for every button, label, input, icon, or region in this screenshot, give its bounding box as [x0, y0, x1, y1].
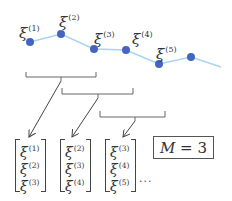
arrow-2 — [72, 98, 98, 137]
vector-entry: ξ(2) — [20, 157, 39, 174]
point-label-4: ξ(4) — [132, 31, 153, 47]
vector-entry: ξ(2) — [65, 140, 84, 157]
arrow-3 — [123, 121, 135, 137]
right-bracket — [41, 139, 46, 192]
point-4 — [122, 46, 130, 54]
right-bracket — [131, 139, 136, 192]
window-vector-1: ξ(1) ξ(2) ξ(3) — [15, 139, 46, 192]
left-bracket — [15, 139, 20, 192]
point-label-3: ξ(3) — [94, 31, 115, 47]
window-bracket-1 — [26, 72, 96, 81]
window-bracket-2 — [62, 88, 133, 98]
right-bracket — [86, 139, 91, 192]
window-size-value: 3 — [197, 139, 207, 157]
vector-entry: ξ(1) — [20, 140, 39, 157]
left-bracket — [105, 139, 110, 192]
arrow-1 — [29, 81, 61, 137]
vector-entry: ξ(5) — [110, 174, 129, 191]
point-6 — [187, 53, 195, 61]
window-bracket-3 — [100, 111, 165, 121]
ellipsis: ... — [139, 172, 153, 185]
vector-entry: ξ(4) — [110, 157, 129, 174]
point-label-2: ξ(2) — [59, 14, 80, 30]
window-size-var: M — [160, 139, 175, 157]
vector-entry: ξ(3) — [20, 174, 39, 191]
window-vector-3: ξ(3) ξ(4) ξ(5) — [105, 139, 136, 192]
vector-entry: ξ(3) — [110, 140, 129, 157]
point-label-5: ξ(5) — [156, 46, 177, 62]
vector-entry: ξ(3) — [65, 157, 84, 174]
point-2 — [57, 30, 65, 38]
left-bracket — [60, 139, 65, 192]
equals-sign: = — [175, 139, 197, 157]
point-label-1: ξ(1) — [19, 25, 40, 41]
vector-entry: ξ(4) — [65, 174, 84, 191]
window-size-box: M = 3 — [153, 136, 214, 159]
window-vector-2: ξ(2) ξ(3) ξ(4) — [60, 139, 91, 192]
